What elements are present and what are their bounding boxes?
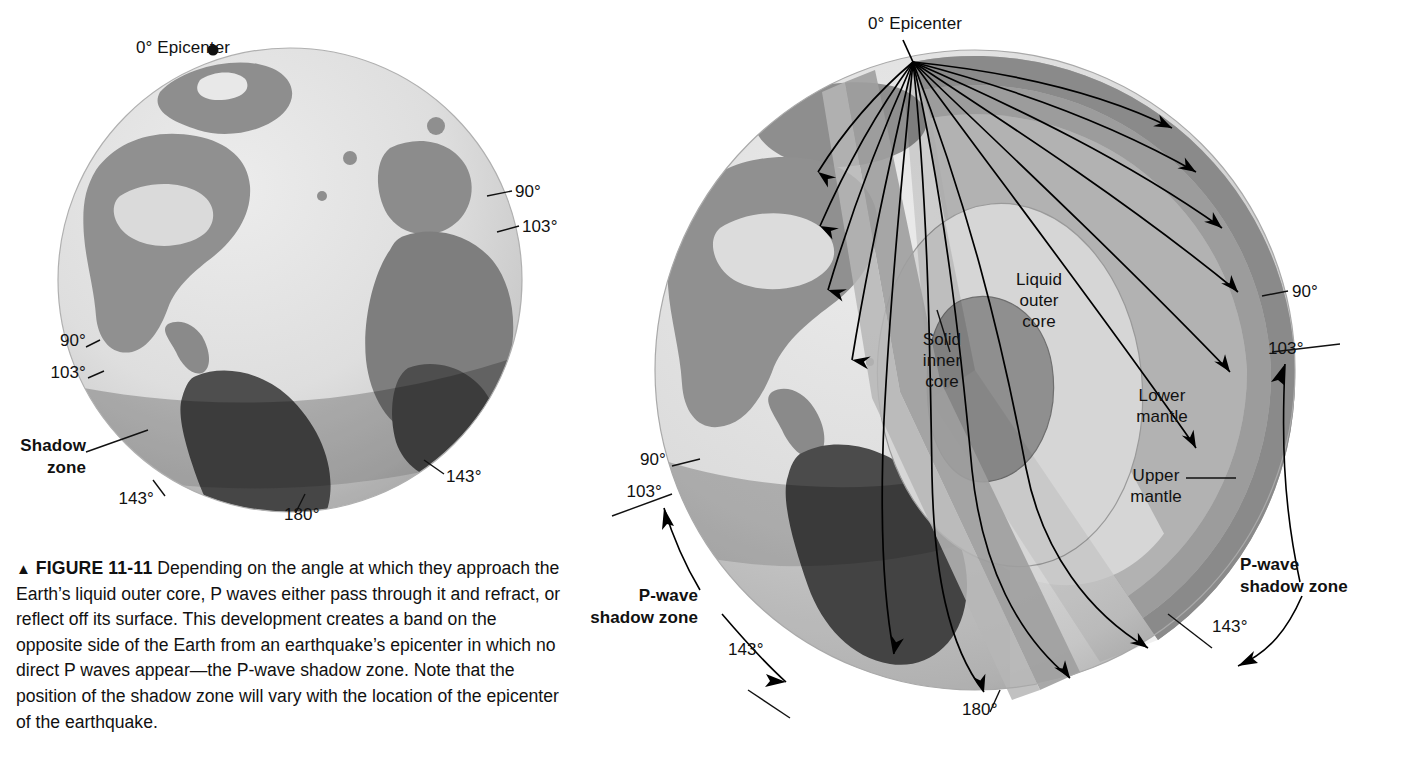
right-cutaway-angle-90-right: 90° [1292, 282, 1318, 301]
figure-caption-label: FIGURE [36, 558, 104, 578]
left-globe-angle-90-right: 90° [515, 182, 541, 201]
figure-caption-text: Depending on the angle at which they app… [16, 558, 560, 732]
layer-label-lower-mantle-line1: Lower [1122, 386, 1202, 405]
right-cutaway-shadow-zone-label-line2: shadow zone [1240, 577, 1348, 596]
layer-label-solid-inner-core-line3: core [906, 372, 978, 391]
layer-label-solid-inner-core-line1: Solid [906, 330, 978, 349]
p-wave-ray-paths [814, 40, 1243, 694]
layer-label-upper-mantle-line1: Upper [1118, 466, 1194, 485]
left-globe-epicenter-label: 0° Epicenter [128, 38, 238, 57]
figure-caption-marker: ▲ [16, 560, 31, 577]
right-cutaway-shadow-zone-left-line1: P-wave [566, 586, 698, 605]
right-globe-cutaway-wedge [822, 56, 1295, 700]
layer-label-liquid-outer-core-line2: outer [1000, 291, 1078, 310]
layer-label-liquid-outer-core-line1: Liquid [1000, 270, 1078, 289]
layer-label-lower-mantle-line2: mantle [1122, 407, 1202, 426]
left-globe-angle-180: 180° [284, 505, 320, 524]
right-cutaway-angle-143-left: 143° [728, 640, 764, 659]
right-cutaway-angle-143-right: 143° [1212, 617, 1248, 636]
right-cutaway-angle-90-left: 90° [604, 450, 666, 469]
figure-root: 0° Epicenter 90° 103° 143° 90° 103° 143°… [0, 0, 1406, 759]
right-cutaway-angle-103-left: 103° [586, 482, 662, 501]
layer-label-upper-mantle-line2: mantle [1118, 487, 1194, 506]
left-globe-shadow-zone-label-line1: Shadow [0, 436, 86, 455]
left-globe-angle-103-right: 103° [522, 217, 558, 236]
right-cutaway-shadow-zone-left-line2: shadow zone [566, 608, 698, 627]
figure-caption: ▲ FIGURE 11-11 Depending on the angle at… [16, 556, 561, 735]
right-cutaway-angle-180: 180° [962, 700, 998, 719]
right-cutaway-angle-103-right: 103° [1268, 339, 1304, 358]
layer-label-solid-inner-core-line2: inner [906, 351, 978, 370]
layer-label-liquid-outer-core-line3: core [1000, 312, 1078, 331]
left-globe-angle-143-right: 143° [446, 467, 482, 486]
right-cutaway-epicenter-label: 0° Epicenter [850, 14, 980, 33]
figure-caption-number: 11-11 [108, 558, 152, 578]
left-globe-leaders [86, 191, 519, 512]
left-globe-angle-90-left: 90° [28, 331, 86, 350]
left-globe-angle-103-left: 103° [18, 363, 86, 382]
left-globe-angle-143-left: 143° [98, 489, 154, 508]
left-globe-shadow-zone-label-line2: zone [0, 458, 86, 477]
right-cutaway-shadow-zone-label-line1: P-wave [1240, 555, 1299, 574]
